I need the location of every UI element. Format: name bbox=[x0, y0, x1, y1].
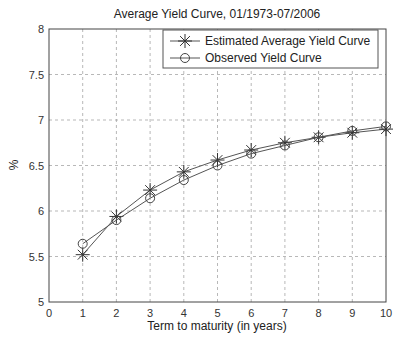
x-tick-label: 6 bbox=[248, 307, 254, 319]
x-tick-label: 1 bbox=[80, 307, 86, 319]
x-tick-label: 5 bbox=[214, 307, 220, 319]
chart-title: Average Yield Curve, 01/1973-07/2006 bbox=[114, 7, 321, 21]
x-tick-label: 0 bbox=[46, 307, 52, 319]
series-star bbox=[76, 122, 393, 262]
y-axis-label: % bbox=[7, 159, 21, 170]
x-axis-label: Term to maturity (in years) bbox=[147, 319, 286, 333]
x-tick-label: 2 bbox=[113, 307, 119, 319]
x-tick-label: 4 bbox=[181, 307, 187, 319]
legend-label: Observed Yield Curve bbox=[205, 51, 322, 65]
legend: Estimated Average Yield CurveObserved Yi… bbox=[163, 30, 378, 68]
y-tick-label: 5.5 bbox=[29, 251, 44, 263]
data-series bbox=[76, 122, 393, 262]
y-tick-label: 7.5 bbox=[29, 69, 44, 81]
series-line bbox=[83, 126, 386, 243]
series-circle bbox=[78, 122, 390, 248]
y-tick-label: 8 bbox=[38, 23, 44, 35]
x-tick-label: 3 bbox=[147, 307, 153, 319]
series-line bbox=[83, 129, 386, 255]
x-tick-label: 7 bbox=[282, 307, 288, 319]
yield-curve-chart: Average Yield Curve, 01/1973-07/2006 012… bbox=[0, 0, 404, 347]
y-tick-label: 7 bbox=[38, 114, 44, 126]
x-tick-label: 10 bbox=[380, 307, 392, 319]
x-tick-label: 8 bbox=[316, 307, 322, 319]
y-tick-label: 5 bbox=[38, 296, 44, 308]
x-tick-label: 9 bbox=[349, 307, 355, 319]
legend-label: Estimated Average Yield Curve bbox=[205, 34, 371, 48]
y-tick-label: 6.5 bbox=[29, 160, 44, 172]
y-tick-label: 6 bbox=[38, 205, 44, 217]
